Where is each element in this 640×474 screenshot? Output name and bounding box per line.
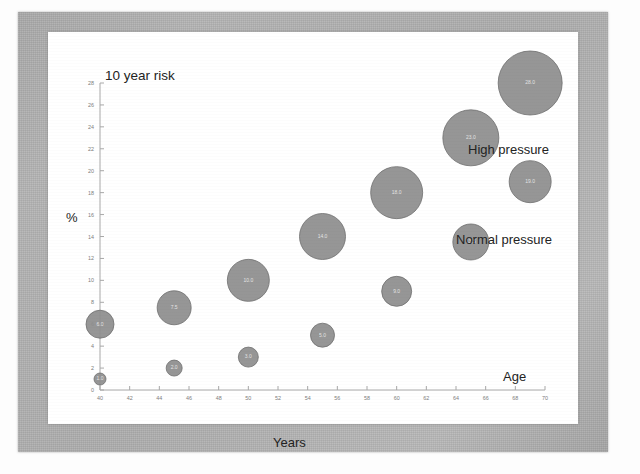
data-bubble-label: 14.0 [318,233,328,239]
data-bubble-label: 9.0 [393,288,400,294]
x-tick-label: 52 [275,395,281,401]
data-bubble-label: 28.0 [525,79,535,85]
y-tick-label: 8 [91,299,94,305]
bubble-chart: 4042444648505254565860626466687002468101… [48,32,578,424]
x-tick-label: 44 [156,395,162,401]
x-tick-label: 40 [97,395,103,401]
y-tick-label: 16 [88,212,94,218]
y-tick-label: 26 [88,102,94,108]
y-tick-label: 22 [88,146,94,152]
data-bubble-label: 6.0 [97,321,104,327]
x-tick-label: 60 [394,395,400,401]
x-tick-label: 62 [423,395,429,401]
data-bubble-label: 5.0 [319,332,326,338]
y-axis-caption-percent: % [66,210,78,225]
x-tick-label: 56 [334,395,340,401]
chart-page: 4042444648505254565860626466687002468101… [48,32,578,424]
y-tick-label: 14 [88,234,94,240]
y-tick-label: 0 [91,387,94,393]
series-label-normal-pressure: Normal pressure [456,232,552,247]
screenshot-root: 4042444648505254565860626466687002468101… [0,0,640,474]
y-tick-label: 20 [88,168,94,174]
y-tick-label: 4 [91,343,94,349]
y-tick-label: 24 [88,124,94,130]
y-tick-label: 18 [88,190,94,196]
x-tick-label: 54 [305,395,311,401]
x-tick-label: 46 [186,395,192,401]
x-axis-caption-years: Years [273,435,306,450]
x-tick-label: 48 [216,395,222,401]
x-tick-label: 42 [127,395,133,401]
data-bubble-label: 7.5 [171,304,178,310]
data-bubble-label: 18.0 [392,189,402,195]
y-tick-label: 12 [88,255,94,261]
x-tick-label: 66 [483,395,489,401]
x-tick-label: 50 [245,395,251,401]
x-tick-label: 68 [512,395,518,401]
x-tick-label: 70 [542,395,548,401]
data-bubble-label: 3.0 [245,353,252,359]
x-tick-label: 58 [364,395,370,401]
data-bubble-label: 19.0 [525,178,535,184]
x-axis-note-age: Age [503,369,526,384]
data-bubble-label: 10.0 [243,277,253,283]
series-label-high-pressure: High pressure [468,142,549,157]
data-bubble-label: 23.0 [466,134,476,140]
x-tick-label: 64 [453,395,459,401]
chart-svg: 4042444648505254565860626466687002468101… [48,32,578,424]
y-tick-label: 2 [91,365,94,371]
chart-title-note: 10 year risk [105,68,175,83]
data-bubble-label: 2.0 [171,364,178,370]
y-tick-label: 28 [88,80,94,86]
y-tick-label: 10 [88,277,94,283]
data-bubble-label: 1.0 [97,375,104,381]
